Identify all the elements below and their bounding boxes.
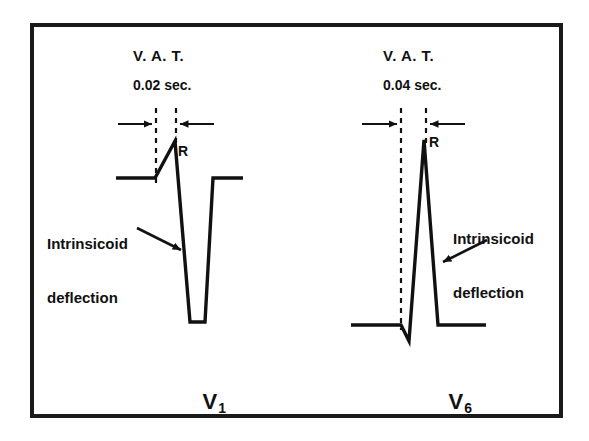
v6-lead-label: V6 — [424, 365, 471, 439]
v6-vat-title: V. A. T. — [383, 48, 434, 65]
v6-lead-subscript: 6 — [464, 400, 472, 416]
v1-annotation-line-2: deflection — [47, 289, 128, 307]
v1-intrinsicoid-annotation: Intrinsicoid deflection — [47, 199, 128, 343]
v6-annotation-line-1: Intrinsicoid — [453, 230, 534, 248]
v1-lead-subscript: 1 — [218, 400, 226, 416]
v6-r-wave-label: R — [429, 135, 439, 151]
v1-lead-letter: V — [202, 389, 217, 414]
v1-vat-value: 0.02 sec. — [133, 78, 191, 94]
v1-r-wave-label: R — [178, 144, 188, 160]
v6-annotation-line-2: deflection — [453, 284, 534, 302]
v6-lead-letter: V — [448, 389, 463, 414]
v6-intrinsicoid-annotation: Intrinsicoid deflection — [453, 194, 534, 338]
v1-lead-label: V1 — [178, 365, 225, 439]
v1-annotation-line-1: Intrinsicoid — [47, 235, 128, 253]
ecg-figure: V. A. T. 0.02 sec. R Intrinsicoid deflec… — [0, 0, 589, 441]
v6-vat-value: 0.04 sec. — [383, 78, 441, 94]
v1-vat-title: V. A. T. — [133, 48, 184, 65]
